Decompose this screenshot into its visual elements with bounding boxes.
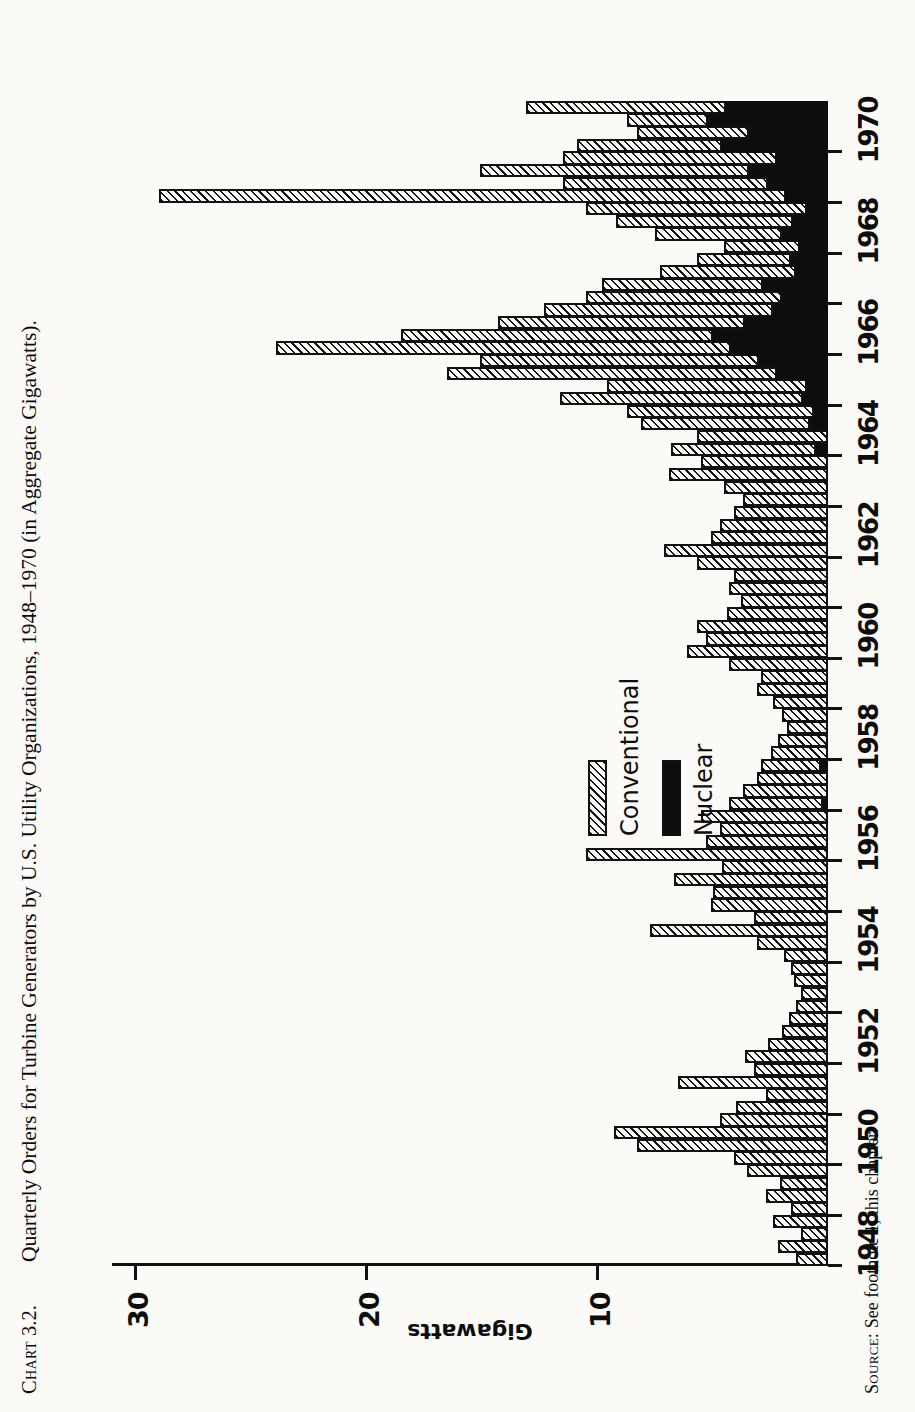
y-tick-label: 30 [123, 1292, 154, 1328]
bar-quarter [756, 1063, 828, 1076]
bar-segment-conventional [766, 1189, 828, 1202]
bar-segment-conventional [724, 240, 800, 253]
bar-quarter [449, 367, 828, 380]
bar-quarter [699, 430, 828, 443]
bar-segment-conventional [757, 772, 828, 785]
bar-quarter [768, 1189, 828, 1202]
bar-quarter [784, 1025, 828, 1038]
chart-page: Chart 3.2. Quarterly Orders for Turbine … [0, 0, 915, 1412]
x-tick [828, 353, 842, 356]
y-tick [365, 1266, 368, 1280]
bar-segment-conventional [577, 139, 722, 152]
bar-quarter [671, 468, 828, 481]
bar-series-group [112, 114, 828, 1266]
y-tick [596, 1266, 599, 1280]
bar-quarter [749, 1164, 828, 1177]
bar-segment-conventional [768, 1038, 828, 1051]
legend-swatch-conventional-icon [588, 760, 607, 836]
bar-quarter [738, 1101, 828, 1114]
x-tick-label: 1964 [854, 401, 884, 467]
bar-quarter [618, 215, 828, 228]
bar-quarter [729, 607, 828, 620]
bar-segment-nuclear [749, 164, 828, 177]
bar-quarter [803, 987, 828, 1000]
x-tick [828, 1011, 842, 1014]
bar-segment-conventional [784, 949, 828, 962]
bar-segment-nuclear [782, 291, 828, 304]
bar-quarter [565, 151, 828, 164]
bar-quarter [639, 126, 828, 139]
bar-segment-nuclear [731, 341, 828, 354]
bar-segment-conventional [687, 645, 828, 658]
bar-segment-conventional [787, 721, 828, 734]
x-tick [828, 809, 842, 812]
y-tick [134, 1266, 137, 1280]
x-tick [828, 859, 842, 862]
bar-segment-conventional [711, 531, 828, 544]
bar-segment-conventional [607, 379, 808, 392]
bar-quarter [676, 873, 828, 886]
bar-quarter [775, 696, 828, 709]
bar-quarter [604, 278, 828, 291]
bar-quarter [726, 240, 828, 253]
bar-quarter [666, 544, 828, 557]
bar-quarter [731, 658, 828, 671]
bar-quarter [775, 1215, 828, 1228]
bar-segment-conventional [706, 835, 828, 848]
bar-segment-conventional [616, 215, 794, 228]
bar-segment-conventional [734, 1151, 828, 1164]
bar-segment-conventional [697, 620, 828, 633]
bar-segment-conventional [754, 911, 828, 924]
bar-segment-nuclear [777, 151, 828, 164]
x-tick-label: 1948 [854, 1211, 884, 1277]
bar-segment-conventional [773, 1215, 828, 1228]
bar-quarter [278, 341, 828, 354]
bar-quarter [803, 1227, 828, 1240]
bar-segment-nuclear [749, 126, 828, 139]
bar-quarter [562, 392, 828, 405]
bar-quarter [796, 974, 828, 987]
bar-quarter [609, 379, 828, 392]
figure-number-prefix: Chart [18, 1341, 40, 1394]
bar-quarter [759, 936, 828, 949]
bar-segment-conventional [745, 1050, 828, 1063]
bar-segment-conventional [697, 253, 791, 266]
bar-quarter [161, 189, 828, 202]
bar-segment-conventional [563, 151, 777, 164]
x-tick-label: 1952 [854, 1008, 884, 1074]
bar-quarter [780, 1240, 829, 1253]
bar-segment-conventional [757, 936, 828, 949]
bar-segment-conventional [780, 1177, 828, 1190]
bar-quarter [770, 1038, 828, 1051]
x-tick-label: 1966 [854, 299, 884, 365]
bar-segment-nuclear [759, 354, 828, 367]
x-tick [828, 404, 842, 407]
x-tick [828, 302, 842, 305]
bar-segment-conventional [743, 784, 828, 797]
bar-segment-conventional [697, 557, 828, 570]
x-tick [828, 1265, 842, 1268]
bar-quarter [643, 417, 828, 430]
figure-number: Chart 3.2. [18, 1305, 41, 1394]
bar-segment-conventional [722, 860, 828, 873]
bar-quarter [736, 506, 828, 519]
bar-segment-conventional [701, 455, 828, 468]
bar-quarter [722, 822, 828, 835]
bar-segment-nuclear [745, 316, 828, 329]
plot-area: Gigawatts 102030 19481950195219541956195… [112, 114, 828, 1266]
bar-segment-conventional [782, 708, 828, 721]
bar-segment-conventional [801, 1227, 828, 1240]
bar-segment-conventional [741, 594, 828, 607]
legend-label-nuclear: Nuclear [690, 744, 718, 836]
bar-quarter [703, 810, 828, 823]
x-tick [828, 657, 842, 660]
bar-segment-conventional [563, 177, 768, 190]
bar-quarter [579, 139, 828, 152]
x-tick [828, 556, 842, 559]
bar-segment-conventional [480, 354, 759, 367]
bar-quarter [652, 924, 828, 937]
bar-quarter [763, 759, 828, 772]
bar-quarter [745, 784, 828, 797]
bar-segment-nuclear [796, 265, 828, 278]
bar-segment-nuclear [810, 417, 828, 430]
